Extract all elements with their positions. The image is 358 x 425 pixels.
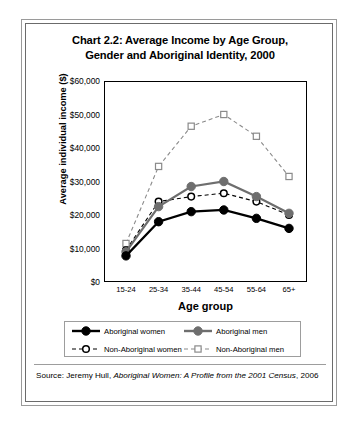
series-line <box>126 182 289 252</box>
y-tick-label: $20,000 <box>38 210 100 220</box>
legend-label: Aboriginal women <box>104 327 165 336</box>
y-tick-label: $40,000 <box>38 143 100 153</box>
data-point <box>188 193 195 200</box>
x-tick-label: 25-34 <box>149 285 168 294</box>
series-aboriginal-women <box>122 206 293 260</box>
y-tick-label: $10,000 <box>38 244 100 254</box>
y-tick-label: $50,000 <box>38 110 100 120</box>
data-point <box>187 182 195 190</box>
legend-item-aboriginal-women[interactable]: Aboriginal women <box>71 322 165 340</box>
legend-swatch <box>71 343 101 355</box>
source-year: , 2006 <box>296 371 319 380</box>
data-point <box>285 224 293 232</box>
data-point <box>285 209 293 217</box>
data-point <box>253 133 259 139</box>
legend-row: Non-Aboriginal womenNon-Aboriginal men <box>65 340 300 358</box>
chart-title-line-2: Gender and Aboriginal Identity, 2000 <box>34 48 326 63</box>
legend-item-non-aboriginal-men[interactable]: Non-Aboriginal men <box>183 340 284 358</box>
legend-row: Aboriginal womenAboriginal men <box>65 322 300 340</box>
legend-label: Aboriginal men <box>216 327 267 336</box>
x-tick-label: 35-44 <box>181 285 200 294</box>
x-tick-label: 65+ <box>283 285 296 294</box>
data-point <box>220 206 228 214</box>
y-tick-label: $30,000 <box>38 177 100 187</box>
series-plot <box>104 81 307 282</box>
x-tick-label: 15-24 <box>116 285 135 294</box>
y-axis-tick-labels: $0$10,000$20,000$30,000$40,000$50,000$60… <box>34 81 100 282</box>
figure-inner-border: Chart 2.2: Average Income by Age Group, … <box>25 23 333 402</box>
series-line <box>126 115 289 244</box>
legend-swatch <box>183 343 213 355</box>
data-point <box>188 123 194 129</box>
data-point <box>122 252 130 260</box>
legend-swatch <box>183 325 213 337</box>
series-non-aboriginal-men <box>123 111 292 246</box>
source-label: Source: <box>36 371 64 380</box>
data-point <box>123 240 129 246</box>
y-tick-label: $60,000 <box>38 76 100 86</box>
x-axis-title: Age group <box>104 300 307 312</box>
figure-frame: Chart 2.2: Average Income by Age Group, … <box>21 19 337 406</box>
data-point <box>154 202 162 210</box>
data-point <box>156 163 162 169</box>
data-point <box>220 177 228 185</box>
data-point <box>252 192 260 200</box>
x-tick-label: 55-64 <box>247 285 266 294</box>
source-citation: Source: Jeremy Hull, Aboriginal Women: A… <box>36 370 326 382</box>
legend-label: Non-Aboriginal men <box>216 345 284 354</box>
x-tick-label: 45-54 <box>214 285 233 294</box>
data-point <box>252 214 260 222</box>
data-point <box>154 218 162 226</box>
y-tick-label: $0 <box>38 277 100 287</box>
chart-title-line-1: Chart 2.2: Average Income by Age Group, <box>72 34 288 46</box>
source-divider <box>34 364 326 365</box>
source-title: Aboriginal Women: A Profile from the 200… <box>113 371 296 380</box>
series-aboriginal-men <box>122 177 293 256</box>
legend-item-non-aboriginal-women[interactable]: Non-Aboriginal women <box>71 340 182 358</box>
data-point <box>221 111 227 117</box>
data-point <box>221 190 228 197</box>
chart-legend: Aboriginal womenAboriginal menNon-Aborig… <box>64 321 301 357</box>
plot-area: Average individual income ($) $0$10,000$… <box>34 72 330 320</box>
source-author: Jeremy Hull, <box>66 371 111 380</box>
data-point <box>286 173 292 179</box>
chart-title: Chart 2.2: Average Income by Age Group, … <box>34 33 326 63</box>
legend-swatch <box>71 325 101 337</box>
data-point <box>187 207 195 215</box>
x-axis-tick-labels: 15-2425-3435-4445-5455-6465+ <box>104 285 307 299</box>
legend-item-aboriginal-men[interactable]: Aboriginal men <box>183 322 267 340</box>
legend-label: Non-Aboriginal women <box>104 345 182 354</box>
